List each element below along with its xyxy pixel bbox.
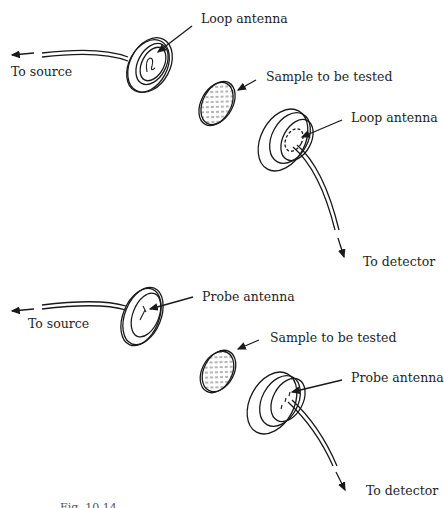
top-source-antenna-disk — [118, 30, 181, 100]
top-sample-disk — [192, 76, 242, 132]
label-bottom-detector-antenna: Probe antenna — [351, 371, 444, 385]
label-bottom-to-detector: To detector — [366, 484, 438, 498]
label-bottom-sample: Sample to be tested — [270, 331, 396, 345]
label-top-source-antenna: Loop antenna — [201, 12, 288, 26]
bottom-sample-disk — [193, 345, 242, 399]
figure-caption: Fig. 10.14 — [60, 501, 117, 508]
pointer-sample-bottom — [238, 340, 259, 349]
label-bottom-source-antenna: Probe antenna — [202, 290, 295, 304]
label-top-to-source: To source — [11, 65, 72, 79]
loop-icon — [146, 58, 155, 72]
label-top-sample: Sample to be tested — [266, 70, 392, 84]
label-bottom-to-source: To source — [28, 317, 89, 331]
bottom-source-cable — [12, 302, 126, 311]
top-source-cable — [12, 50, 128, 61]
label-top-detector-antenna: Loop antenna — [351, 111, 438, 125]
probe-icon — [140, 306, 146, 320]
bottom-source-antenna-disk — [113, 281, 171, 351]
top-detector-cable — [293, 145, 344, 257]
pointer-sample — [238, 80, 256, 90]
pointer-source-probe — [150, 297, 193, 309]
top-detector-antenna-disk — [248, 101, 320, 180]
bottom-detector-antenna-disk — [237, 364, 312, 443]
label-top-to-detector: To detector — [363, 255, 435, 269]
